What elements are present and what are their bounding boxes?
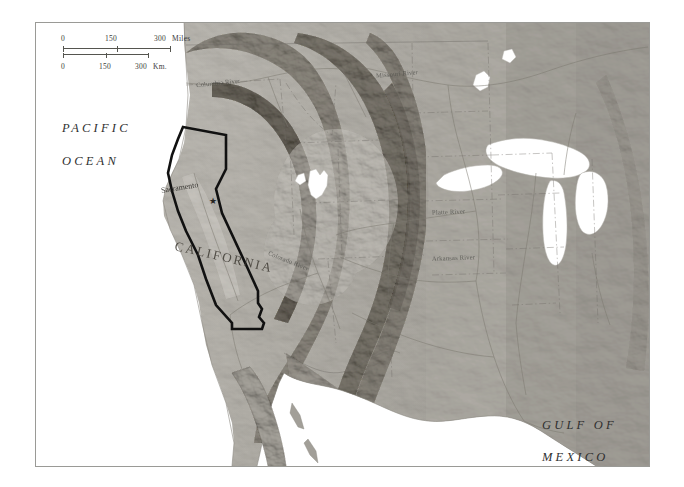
gulf-of-mexico-label-line2: MEXICO bbox=[542, 450, 608, 465]
map-page: 0 150 300 Miles 0 150 300 Km. bbox=[0, 0, 684, 487]
scale-km-unit: Km. bbox=[153, 62, 167, 71]
platte-river-label: Platte River bbox=[432, 207, 466, 215]
map-terrain-canvas bbox=[36, 23, 649, 466]
star-marker: ★ bbox=[209, 199, 214, 204]
scale-miles-numbers: 0 150 300 Miles bbox=[61, 34, 211, 46]
scale-km-mid: 150 bbox=[99, 62, 111, 71]
scale-km-line bbox=[61, 53, 211, 61]
pacific-ocean-label-line2: OCEAN bbox=[62, 154, 119, 169]
scale-km-numbers: 0 150 300 Km. bbox=[61, 62, 211, 74]
scale-km-max: 300 bbox=[135, 62, 147, 71]
gulf-of-mexico-label-line1: GULF OF bbox=[542, 418, 617, 433]
scale-miles-mid: 150 bbox=[105, 34, 117, 43]
scale-km-zero: 0 bbox=[61, 62, 65, 71]
scale-bar: 0 150 300 Miles 0 150 300 Km. bbox=[61, 34, 211, 74]
map-frame: 0 150 300 Miles 0 150 300 Km. bbox=[35, 22, 650, 467]
scale-miles-zero: 0 bbox=[61, 34, 65, 43]
arkansas-river-label: Arkansas River bbox=[432, 253, 475, 261]
pacific-ocean-label-line1: PACIFIC bbox=[62, 121, 131, 136]
scale-miles-max: 300 bbox=[154, 34, 166, 43]
scale-miles-line bbox=[61, 46, 211, 53]
scale-miles-unit: Miles bbox=[172, 34, 191, 43]
